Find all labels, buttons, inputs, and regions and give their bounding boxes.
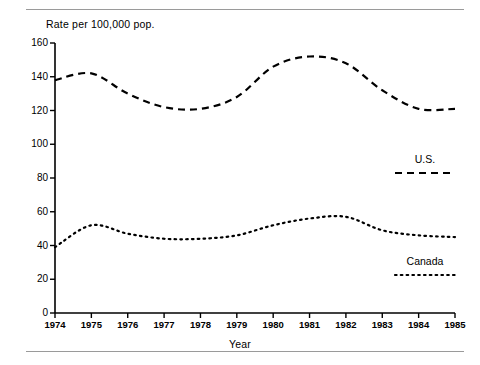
y-tick-label: 160 <box>22 37 48 48</box>
x-tick-label: 1974 <box>44 319 65 330</box>
axis-lines <box>55 43 455 313</box>
legend-label-canada: Canada <box>407 255 444 267</box>
y-tick-label: 100 <box>22 138 48 149</box>
x-tick-label: 1985 <box>444 319 465 330</box>
legend-label-us: U.S. <box>415 153 435 165</box>
x-tick-label: 1984 <box>408 319 429 330</box>
x-tick-label: 1979 <box>226 319 247 330</box>
y-tick-label: 120 <box>22 105 48 116</box>
series-line-canada <box>55 216 455 247</box>
figure-container: Rate per 100,000 pop. Year U.S. Canada 0… <box>0 0 480 365</box>
y-tick-label: 80 <box>22 172 48 183</box>
x-tick-label: 1981 <box>299 319 320 330</box>
y-tick-label: 0 <box>22 307 48 318</box>
data-series-paths <box>55 56 455 247</box>
x-tick-label: 1976 <box>117 319 138 330</box>
x-tick-label: 1982 <box>335 319 356 330</box>
y-tick-label: 140 <box>22 71 48 82</box>
y-tick-label: 60 <box>22 206 48 217</box>
y-tick-label: 40 <box>22 240 48 251</box>
x-tick-label: 1978 <box>190 319 211 330</box>
x-tick-label: 1975 <box>81 319 102 330</box>
series-line-us <box>55 56 455 110</box>
y-tick-label: 20 <box>22 273 48 284</box>
x-tick-label: 1983 <box>372 319 393 330</box>
chart-plot-area <box>0 0 480 365</box>
x-tick-label: 1980 <box>263 319 284 330</box>
x-tick-label: 1977 <box>154 319 175 330</box>
